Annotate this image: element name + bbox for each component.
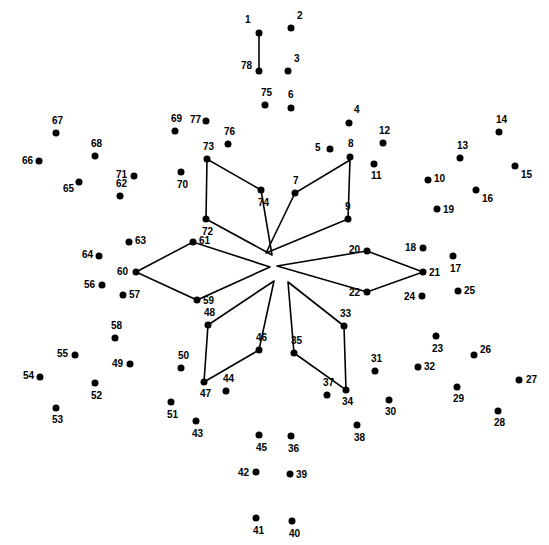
puzzle-dot-42[interactable] (253, 469, 260, 476)
puzzle-dot-label-70: 70 (177, 180, 188, 190)
puzzle-dot-label-37: 37 (323, 378, 334, 388)
puzzle-dot-62[interactable] (117, 193, 124, 200)
puzzle-dot-13[interactable] (457, 155, 464, 162)
puzzle-dot-label-59: 59 (203, 296, 214, 306)
puzzle-dot-label-9: 9 (345, 202, 351, 212)
puzzle-dot-31[interactable] (372, 368, 379, 375)
puzzle-dot-69[interactable] (172, 128, 179, 135)
puzzle-dot-label-63: 63 (135, 236, 146, 246)
puzzle-dot-23[interactable] (433, 333, 440, 340)
puzzle-dot-75[interactable] (262, 102, 269, 109)
puzzle-dot-12[interactable] (380, 140, 387, 147)
puzzle-dot-30[interactable] (386, 397, 393, 404)
puzzle-dot-65[interactable] (76, 179, 83, 186)
puzzle-dot-label-17: 17 (450, 264, 461, 274)
puzzle-dot-20[interactable] (364, 248, 371, 255)
puzzle-dot-43[interactable] (193, 418, 200, 425)
puzzle-dot-21[interactable] (420, 269, 427, 276)
puzzle-dot-18[interactable] (420, 245, 427, 252)
puzzle-dot-label-51: 51 (167, 410, 178, 420)
puzzle-dot-50[interactable] (178, 365, 185, 372)
puzzle-dot-4[interactable] (346, 120, 353, 127)
puzzle-dot-77[interactable] (203, 118, 210, 125)
puzzle-dot-label-46: 46 (256, 333, 267, 343)
puzzle-dot-67[interactable] (53, 130, 60, 137)
puzzle-dot-label-77: 77 (190, 115, 201, 125)
puzzle-dot-label-22: 22 (349, 288, 360, 298)
puzzle-dot-76[interactable] (225, 141, 232, 148)
puzzle-dot-78[interactable] (256, 68, 263, 75)
puzzle-dot-label-40: 40 (289, 529, 300, 539)
puzzle-dot-8[interactable] (347, 154, 354, 161)
puzzle-dot-26[interactable] (471, 352, 478, 359)
puzzle-dot-39[interactable] (287, 471, 294, 478)
puzzle-dot-63[interactable] (126, 239, 133, 246)
puzzle-dot-29[interactable] (454, 384, 461, 391)
puzzle-dot-33[interactable] (341, 323, 348, 330)
puzzle-dot-48[interactable] (205, 322, 212, 329)
puzzle-dot-label-66: 66 (22, 156, 33, 166)
puzzle-dot-64[interactable] (96, 253, 103, 260)
puzzle-dot-16[interactable] (473, 187, 480, 194)
puzzle-dot-6[interactable] (288, 105, 295, 112)
puzzle-dot-25[interactable] (455, 288, 462, 295)
puzzle-dot-17[interactable] (450, 253, 457, 260)
puzzle-dot-72[interactable] (203, 216, 210, 223)
puzzle-dot-3[interactable] (285, 68, 292, 75)
puzzle-dot-35[interactable] (291, 350, 298, 357)
puzzle-dot-14[interactable] (496, 129, 503, 136)
puzzle-dot-68[interactable] (92, 153, 99, 160)
puzzle-dot-58[interactable] (112, 335, 119, 342)
puzzle-dot-61[interactable] (190, 239, 197, 246)
puzzle-dot-label-11: 11 (371, 171, 382, 181)
puzzle-dot-55[interactable] (72, 352, 79, 359)
puzzle-dot-label-24: 24 (404, 292, 415, 302)
puzzle-dot-32[interactable] (415, 364, 422, 371)
puzzle-dot-57[interactable] (120, 292, 127, 299)
puzzle-dot-5[interactable] (327, 146, 334, 153)
puzzle-dot-37[interactable] (324, 392, 331, 399)
puzzle-dot-label-15: 15 (521, 170, 532, 180)
puzzle-dot-40[interactable] (289, 518, 296, 525)
puzzle-dot-label-7: 7 (293, 176, 299, 186)
puzzle-dot-54[interactable] (37, 374, 44, 381)
puzzle-dot-36[interactable] (288, 433, 295, 440)
puzzle-dot-73[interactable] (204, 156, 211, 163)
puzzle-dot-label-1: 1 (245, 15, 251, 25)
puzzle-dot-53[interactable] (53, 405, 60, 412)
puzzle-dot-label-42: 42 (238, 468, 249, 478)
puzzle-dot-2[interactable] (288, 25, 295, 32)
puzzle-dot-56[interactable] (99, 282, 106, 289)
puzzle-dot-9[interactable] (345, 216, 352, 223)
puzzle-dot-label-68: 68 (91, 139, 102, 149)
puzzle-dot-27[interactable] (516, 377, 523, 384)
puzzle-dot-1[interactable] (256, 30, 263, 37)
puzzle-dot-label-78: 78 (241, 61, 252, 71)
puzzle-dot-70[interactable] (178, 169, 185, 176)
puzzle-dot-10[interactable] (425, 177, 432, 184)
puzzle-dot-46[interactable] (256, 347, 263, 354)
puzzle-dot-28[interactable] (495, 408, 502, 415)
puzzle-dot-11[interactable] (371, 161, 378, 168)
puzzle-dot-34[interactable] (343, 387, 350, 394)
puzzle-dot-44[interactable] (223, 388, 230, 395)
puzzle-dot-52[interactable] (92, 380, 99, 387)
puzzle-dot-51[interactable] (168, 399, 175, 406)
puzzle-dot-41[interactable] (253, 515, 260, 522)
puzzle-dot-47[interactable] (201, 379, 208, 386)
puzzle-dot-49[interactable] (127, 361, 134, 368)
puzzle-dot-38[interactable] (354, 422, 361, 429)
puzzle-dot-label-67: 67 (52, 116, 63, 126)
puzzle-dot-60[interactable] (133, 269, 140, 276)
puzzle-dot-66[interactable] (36, 158, 43, 165)
puzzle-dot-74[interactable] (258, 187, 265, 194)
puzzle-dot-15[interactable] (512, 163, 519, 170)
puzzle-dot-label-69: 69 (171, 114, 182, 124)
puzzle-dot-19[interactable] (434, 206, 441, 213)
puzzle-dot-59[interactable] (194, 297, 201, 304)
puzzle-dot-24[interactable] (419, 293, 426, 300)
puzzle-dot-45[interactable] (256, 432, 263, 439)
puzzle-dot-7[interactable] (292, 190, 299, 197)
puzzle-dot-22[interactable] (364, 289, 371, 296)
puzzle-dot-71[interactable] (131, 173, 138, 180)
